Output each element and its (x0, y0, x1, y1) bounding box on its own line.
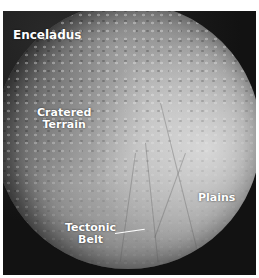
label-line: Plains (198, 192, 235, 204)
moon-title: Enceladus (13, 29, 81, 41)
enceladus-image: Enceladus Cratered Terrain Plains Tecton… (3, 11, 256, 275)
label-tectonic-belt: Tectonic Belt (65, 222, 116, 246)
label-line: Terrain (37, 119, 91, 131)
label-line: Belt (65, 234, 116, 246)
label-plains: Plains (198, 192, 235, 204)
label-cratered-terrain: Cratered Terrain (37, 107, 91, 131)
